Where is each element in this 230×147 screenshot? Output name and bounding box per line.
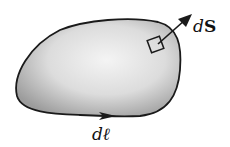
surface-element-label: dS [193,16,216,36]
line-element-label: dℓ [92,124,110,144]
surface-region [16,19,180,116]
surface-diagram: dS dℓ [0,0,230,147]
